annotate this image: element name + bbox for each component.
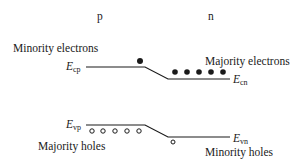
band-lines (0, 0, 307, 163)
minority-electron-dot (137, 58, 143, 64)
minority-hole-circle (171, 140, 175, 144)
majority-electron-dots (172, 69, 226, 75)
valence-band-edge (86, 125, 230, 137)
majority-hole-circles (90, 129, 141, 133)
pn-junction-band-diagram: p n Minority electrons Majority electron… (0, 0, 307, 163)
